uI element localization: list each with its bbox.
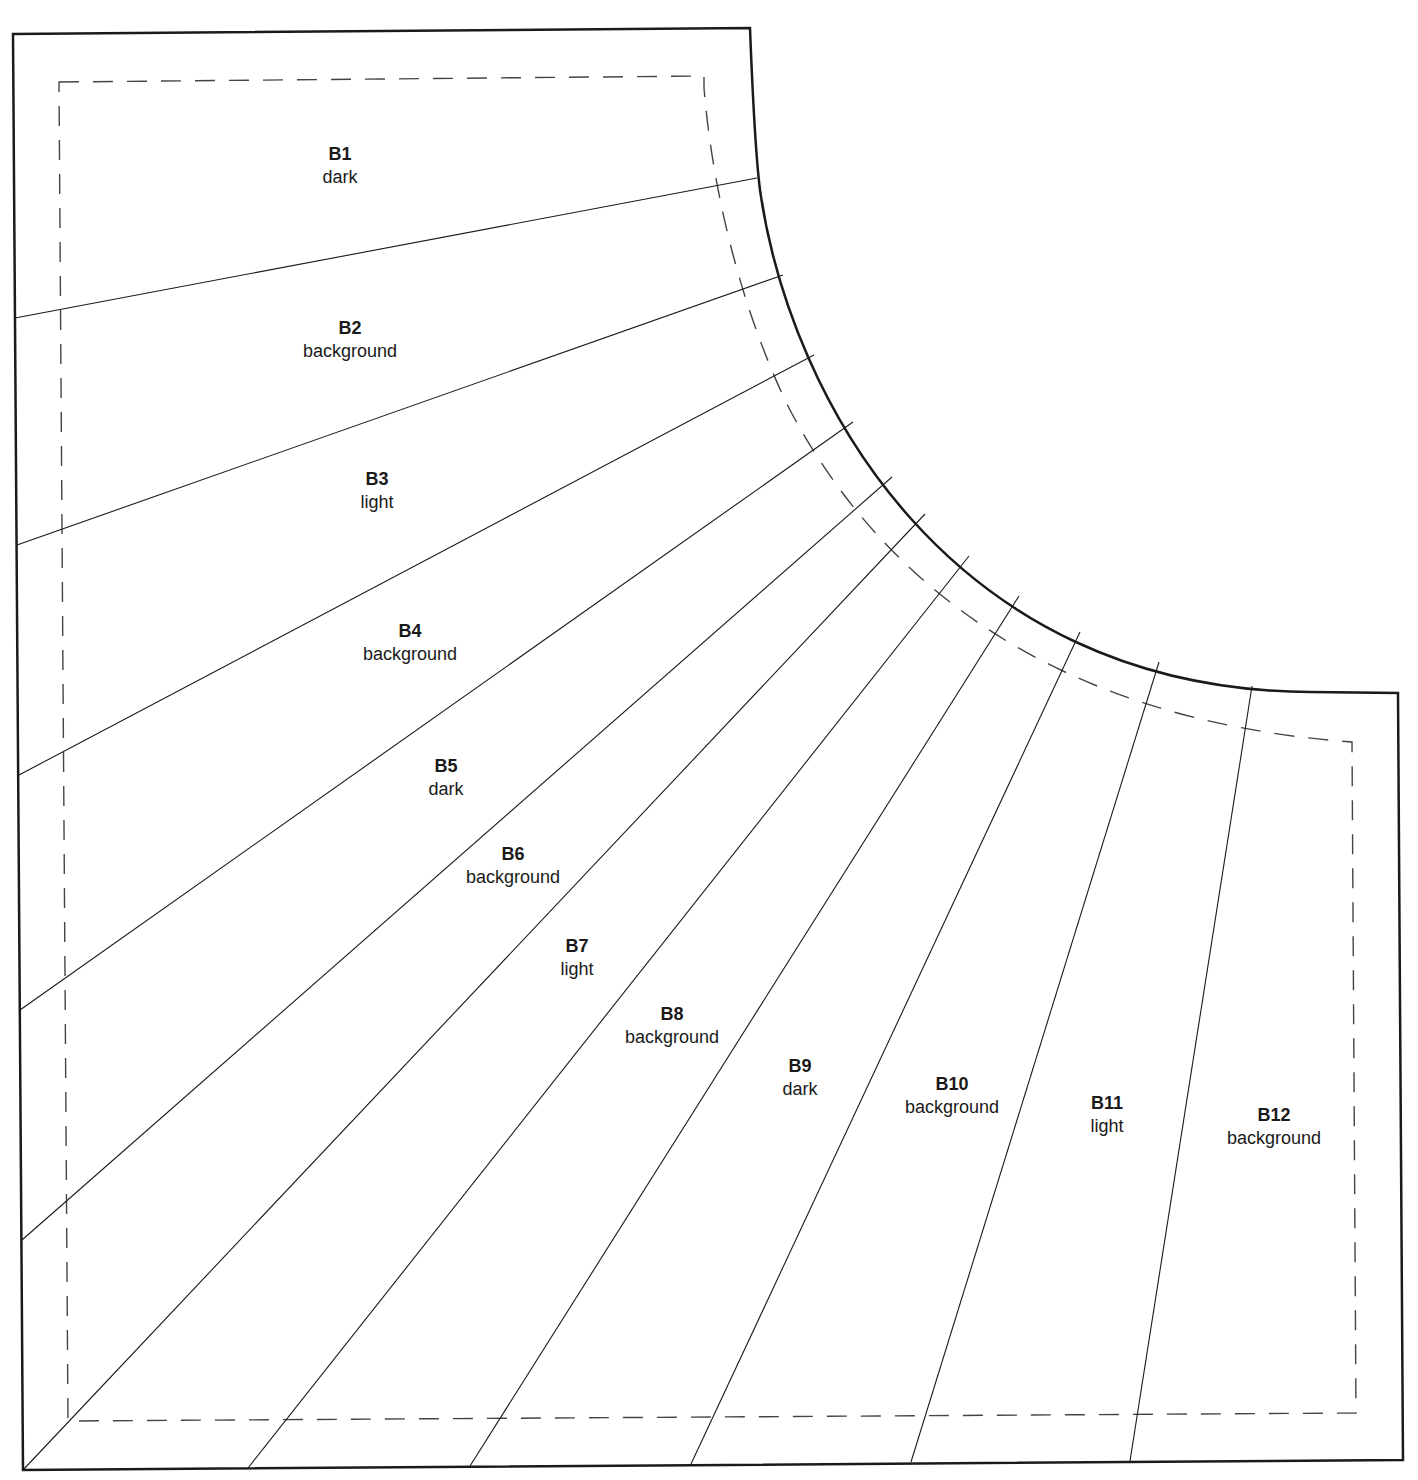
section-fabric: background [363,643,457,666]
section-label-b12: B12background [1227,1104,1321,1151]
section-id: B10 [905,1073,999,1096]
section-fabric: light [1090,1115,1123,1138]
section-fabric: background [303,340,397,363]
section-label-b1: B1dark [322,143,357,190]
section-label-b5: B5dark [428,755,463,802]
section-fabric: light [360,491,393,514]
section-id: B7 [560,935,593,958]
section-id: B9 [782,1055,817,1078]
section-id: B5 [428,755,463,778]
section-id: B1 [322,143,357,166]
pattern-outline [13,28,1403,1470]
section-id: B11 [1090,1092,1123,1115]
section-fabric: dark [782,1078,817,1101]
section-id: B2 [303,317,397,340]
section-fabric: background [466,866,560,889]
section-fabric: dark [322,166,357,189]
seam-allowance-line [59,76,1356,1421]
section-fabric: background [905,1096,999,1119]
section-label-b2: B2background [303,317,397,364]
section-fabric: dark [428,778,463,801]
section-label-b8: B8background [625,1003,719,1050]
section-label-b7: B7light [560,935,593,982]
section-id: B4 [363,620,457,643]
section-fabric: light [560,958,593,981]
section-seam-lines [15,178,1252,1470]
section-id: B6 [466,843,560,866]
foundation-pattern-diagram [0,0,1418,1480]
section-label-b4: B4background [363,620,457,667]
section-fabric: background [625,1026,719,1049]
section-id: B12 [1227,1104,1321,1127]
section-id: B8 [625,1003,719,1026]
section-id: B3 [360,468,393,491]
section-label-b10: B10background [905,1073,999,1120]
section-label-b9: B9dark [782,1055,817,1102]
section-label-b6: B6background [466,843,560,890]
section-fabric: background [1227,1127,1321,1150]
section-label-b11: B11light [1090,1092,1123,1139]
section-label-b3: B3light [360,468,393,515]
